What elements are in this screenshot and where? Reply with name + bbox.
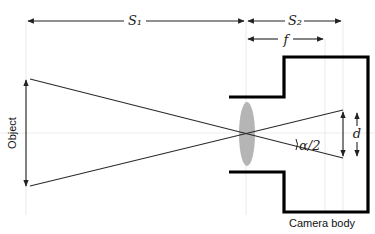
light-rays xyxy=(30,79,343,186)
camera-optics-diagram: S₁ S₂ f Object d α/2 Camera body xyxy=(0,0,375,234)
guide-lines xyxy=(0,21,375,215)
object-label: Object xyxy=(6,117,18,149)
half-angle-annotation: α/2 xyxy=(296,138,320,153)
s1-dimension: S₁ xyxy=(28,13,244,28)
ray-bottom-to-top xyxy=(30,110,343,186)
s1-label: S₁ xyxy=(128,13,142,28)
s2-dimension: S₂ xyxy=(248,13,341,28)
focal-length-dimension: f xyxy=(248,32,323,47)
image-size-dimension: d xyxy=(353,113,361,156)
d-label: d xyxy=(353,126,361,141)
camera-body-label: Camera body xyxy=(289,217,356,229)
s2-label: S₂ xyxy=(288,13,302,28)
angle-arc-icon xyxy=(296,139,298,150)
ray-top-to-bottom xyxy=(30,79,343,158)
half-angle-label: α/2 xyxy=(299,138,320,153)
f-label: f xyxy=(283,32,291,47)
